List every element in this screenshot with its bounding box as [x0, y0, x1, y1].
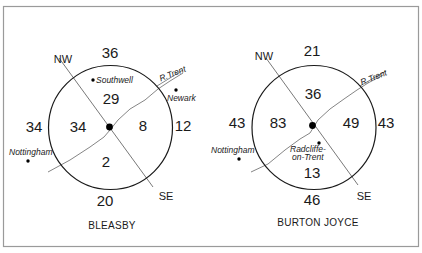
inner-count-west: 34 [70, 118, 87, 135]
se-direction-label: SE [357, 190, 372, 202]
place-dot-southwell [91, 78, 94, 81]
village-center-dot [309, 122, 316, 129]
nw-direction-label: NW [54, 53, 73, 65]
place-label-nottingham: Nottingham [211, 145, 254, 155]
place-label-radcliffe-line2: on-Trent [292, 152, 324, 162]
panel-title-bleasby: BLEASBY [88, 220, 136, 231]
river-trent-label: R.Trent [359, 67, 389, 87]
outer-count-east: 43 [378, 114, 395, 131]
diagram-canvas: NW SE R.Trent Southwell Newark Nottingha… [0, 0, 422, 253]
place-label-newark: Newark [167, 93, 197, 103]
panel-bleasby: NW SE R.Trent Southwell Newark Nottingha… [9, 44, 197, 231]
village-center-dot [106, 124, 113, 131]
river-trent-line [48, 73, 183, 172]
inner-count-east: 8 [139, 117, 147, 134]
place-label-southwell: Southwell [96, 75, 134, 85]
inner-count-south: 2 [102, 153, 110, 170]
panel-burton-joyce: NW SE R.Trent Nottingham Radcliffe- on-T… [211, 42, 394, 228]
nw-direction-label: NW [255, 50, 274, 62]
inner-count-east: 49 [343, 114, 360, 131]
outer-count-east: 12 [175, 117, 192, 134]
inner-count-south: 13 [304, 164, 321, 181]
place-label-nottingham: Nottingham [9, 147, 52, 157]
inner-count-north: 29 [103, 90, 120, 107]
inner-count-west: 83 [270, 114, 287, 131]
place-dot-nottingham [237, 157, 240, 160]
place-dot-nottingham [26, 159, 29, 162]
panel-title-burton-joyce: BURTON JOYCE [277, 217, 359, 228]
inner-count-north: 36 [305, 85, 322, 102]
place-dot-newark [174, 88, 177, 91]
outer-count-west: 43 [229, 114, 246, 131]
river-trent-label: R.Trent [158, 63, 188, 83]
outer-count-north: 36 [102, 44, 119, 61]
outer-count-south: 20 [97, 192, 114, 209]
outer-count-south: 46 [304, 191, 321, 208]
outer-count-north: 21 [304, 42, 321, 59]
outer-count-west: 34 [26, 118, 43, 135]
se-direction-label: SE [159, 190, 174, 202]
